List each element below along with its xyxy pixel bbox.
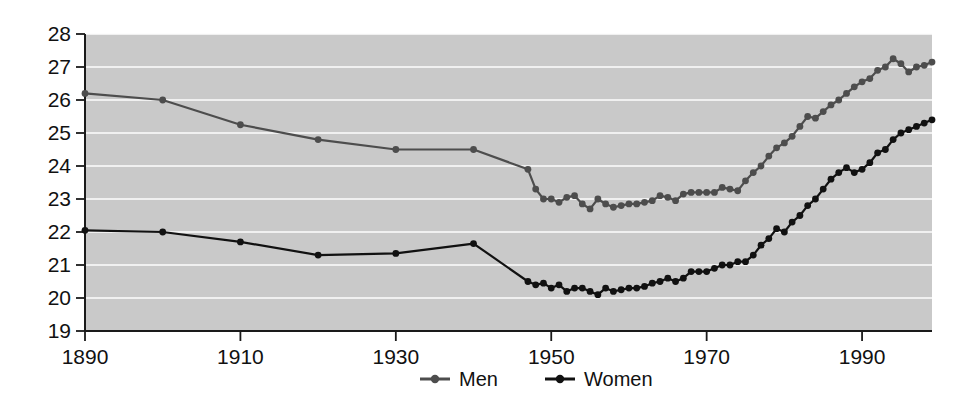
data-point — [734, 187, 741, 194]
data-point — [392, 250, 399, 257]
data-point — [680, 275, 687, 282]
data-point — [765, 235, 772, 242]
data-point — [921, 120, 928, 127]
data-point — [563, 288, 570, 295]
data-point — [695, 189, 702, 196]
data-point — [898, 130, 905, 137]
data-point — [765, 153, 772, 160]
y-tick-label: 22 — [48, 220, 71, 243]
data-point — [82, 90, 89, 97]
y-tick-label: 26 — [48, 88, 71, 111]
data-point — [859, 166, 866, 173]
data-point — [750, 252, 757, 259]
data-point — [742, 177, 749, 184]
data-point — [602, 201, 609, 208]
data-point — [711, 265, 718, 272]
data-point — [828, 102, 835, 109]
data-point — [866, 159, 873, 166]
data-point — [594, 196, 601, 203]
data-point — [664, 275, 671, 282]
data-point — [890, 55, 897, 62]
data-point — [820, 186, 827, 193]
data-point — [563, 194, 570, 201]
data-point — [758, 242, 765, 249]
data-point — [548, 196, 555, 203]
data-point — [392, 146, 399, 153]
data-point — [633, 201, 640, 208]
data-point — [525, 166, 532, 173]
data-point — [548, 285, 555, 292]
data-point — [727, 186, 734, 193]
data-point — [618, 286, 625, 293]
data-point — [734, 258, 741, 265]
data-point — [470, 240, 477, 247]
data-point — [688, 268, 695, 275]
x-tick-label: 1930 — [372, 345, 419, 368]
data-point — [703, 268, 710, 275]
data-point — [851, 83, 858, 90]
data-point — [843, 90, 850, 97]
data-point — [571, 192, 578, 199]
legend-item-men: Men — [420, 368, 498, 390]
data-point — [695, 268, 702, 275]
data-point — [711, 189, 718, 196]
y-tick-label: 24 — [48, 154, 72, 177]
data-point — [797, 123, 804, 130]
data-point — [929, 116, 936, 123]
data-point — [843, 164, 850, 171]
x-tick-label: 1890 — [62, 345, 109, 368]
x-tick-label: 1910 — [217, 345, 264, 368]
data-point — [315, 252, 322, 259]
chart-legend: MenWomen — [420, 368, 653, 390]
data-point — [579, 201, 586, 208]
x-tick-label: 1950 — [528, 345, 575, 368]
legend-swatch-marker — [431, 375, 439, 383]
data-point — [579, 285, 586, 292]
data-point — [657, 278, 664, 285]
y-tick-label: 21 — [48, 253, 71, 276]
data-point — [556, 199, 563, 206]
data-point — [657, 192, 664, 199]
data-point — [587, 288, 594, 295]
data-point — [315, 136, 322, 143]
data-point — [649, 197, 656, 204]
x-tick-label: 1970 — [683, 345, 730, 368]
y-tick-label: 23 — [48, 187, 71, 210]
data-point — [618, 202, 625, 209]
data-point — [812, 115, 819, 122]
legend-label: Women — [584, 368, 653, 390]
legend-swatch-marker — [556, 375, 564, 383]
data-point — [664, 194, 671, 201]
data-point — [804, 202, 811, 209]
data-point — [797, 212, 804, 219]
data-point — [719, 262, 726, 269]
data-point — [680, 191, 687, 198]
data-point — [587, 206, 594, 213]
data-point — [649, 280, 656, 287]
data-point — [82, 227, 89, 234]
data-point — [835, 169, 842, 176]
data-point — [540, 196, 547, 203]
data-point — [859, 78, 866, 85]
data-point — [159, 97, 166, 104]
data-point — [874, 149, 881, 156]
data-point — [905, 126, 912, 133]
y-tick-label: 27 — [48, 55, 71, 78]
data-point — [929, 59, 936, 66]
data-point — [812, 196, 819, 203]
data-point — [913, 123, 920, 130]
data-point — [626, 201, 633, 208]
data-point — [633, 285, 640, 292]
y-axis-tick-labels: 19202122232425262728 — [48, 22, 72, 342]
data-point — [874, 67, 881, 74]
data-point — [571, 285, 578, 292]
data-point — [789, 219, 796, 226]
data-point — [781, 140, 788, 147]
data-point — [750, 169, 757, 176]
plot-area-background — [85, 34, 932, 331]
x-tick-label: 1990 — [839, 345, 886, 368]
data-point — [882, 146, 889, 153]
y-axis-ticks — [76, 34, 85, 331]
data-point — [851, 169, 858, 176]
y-tick-label: 20 — [48, 286, 71, 309]
